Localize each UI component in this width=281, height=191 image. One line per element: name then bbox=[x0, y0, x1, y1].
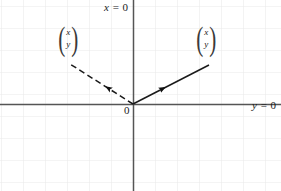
x-axis-label-value: 0 bbox=[123, 1, 129, 13]
original-vector-components: x y bbox=[204, 27, 208, 50]
reflected-vector-component-y: y bbox=[66, 39, 70, 50]
left-paren-open-icon: ( bbox=[58, 24, 65, 53]
original-vector-component-x: x bbox=[204, 27, 208, 38]
left-paren-close-icon: ) bbox=[71, 24, 78, 53]
x-axis-label-equals: = bbox=[109, 1, 122, 13]
x-axis-label: x = 0 bbox=[104, 1, 129, 13]
original-vector-label: ( x y ) bbox=[194, 24, 219, 53]
original-vector-component-y: y bbox=[204, 39, 208, 50]
grid-lines bbox=[0, 0, 281, 191]
reflected-vector-components: x y bbox=[66, 27, 70, 50]
vector-reflection-diagram: x = 0 y = 0 0 ( x y ) ( x y ) bbox=[0, 0, 281, 191]
reflected-vector-component-x: x bbox=[66, 27, 70, 38]
reflected-vector-label: ( x y ) bbox=[56, 24, 81, 53]
y-axis-label: y = 0 bbox=[252, 99, 277, 111]
origin-label: 0 bbox=[124, 104, 130, 116]
coordinate-plane-svg bbox=[0, 0, 281, 191]
right-paren-close-icon: ) bbox=[209, 24, 216, 53]
right-paren-open-icon: ( bbox=[196, 24, 203, 53]
y-axis-label-value: 0 bbox=[271, 99, 277, 111]
y-axis-label-equals: = bbox=[257, 99, 270, 111]
